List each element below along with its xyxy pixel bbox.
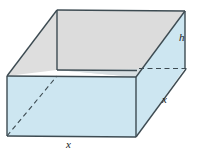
- width-label-x: x: [66, 139, 71, 150]
- edge-inner-bottom-horizontal: [57, 70, 137, 71]
- box-diagram-svg: [0, 0, 200, 159]
- depth-label-x: x: [162, 94, 167, 105]
- figure-container: h x x: [0, 0, 200, 159]
- edge-top-back: [57, 10, 185, 11]
- front-face: [7, 76, 136, 137]
- edge-front-top: [7, 76, 136, 77]
- edge-front-bottom: [7, 136, 136, 137]
- height-label-h: h: [179, 32, 185, 43]
